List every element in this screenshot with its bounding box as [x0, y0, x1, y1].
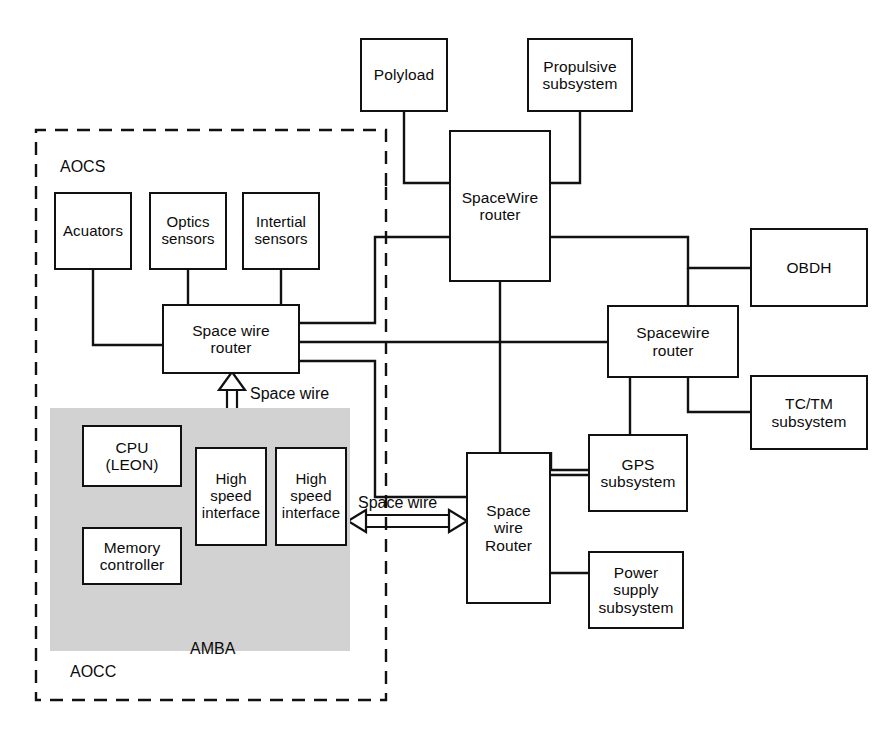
node-obdh-label: OBDH [784, 259, 833, 276]
node-intertial-sensors-line2: sensors [252, 231, 309, 248]
node-space-wire-router-platform[interactable]: Space wire Router [466, 452, 551, 604]
aocs-region-label: AOCS [60, 158, 105, 176]
node-intertial-sensors-line1: Intertial [252, 214, 309, 231]
node-optics-sensors-line2: sensors [159, 231, 216, 248]
node-high-speed-interface-2-line3: interface [280, 505, 342, 522]
node-intertial-sensors[interactable]: Intertial sensors [242, 192, 320, 270]
node-space-wire-router-platform-line1: Space wire [468, 502, 549, 537]
node-polyload[interactable]: Polyload [360, 38, 448, 112]
node-space-wire-router-platform-line2: Router [468, 537, 549, 554]
node-high-speed-interface-2-line1: High [280, 471, 342, 488]
node-memory-controller[interactable]: Memory controller [82, 527, 182, 585]
node-gps-subsystem-line1: GPS [599, 456, 678, 473]
node-high-speed-interface-1[interactable]: High speed interface [195, 447, 267, 546]
node-tc-tm-subsystem[interactable]: TC/TM subsystem [750, 375, 868, 450]
node-memory-controller-line1: Memory [98, 539, 167, 556]
node-acuators-label: Acuators [61, 223, 125, 240]
node-spacewire-router-right-line2: router [634, 342, 711, 359]
node-spacewire-router-main-line1: SpaceWire [460, 189, 541, 206]
node-power-supply-subsystem[interactable]: Power supply subsystem [588, 551, 684, 629]
node-tc-tm-subsystem-line1: TC/TM [770, 395, 849, 412]
aocc-region-label: AOCC [70, 663, 116, 681]
amba-bus-label: AMBA [190, 640, 235, 658]
node-space-wire-router-aocs[interactable]: Space wire router [162, 304, 300, 374]
node-spacewire-router-main-line2: router [460, 206, 541, 223]
diagram-canvas: AOCS AOCC Space wire Space wire AMBA Pol… [0, 0, 896, 732]
node-high-speed-interface-1-line1: High [200, 471, 262, 488]
node-gps-subsystem[interactable]: GPS subsystem [588, 434, 688, 512]
node-high-speed-interface-1-line3: interface [200, 505, 262, 522]
node-optics-sensors[interactable]: Optics sensors [149, 192, 227, 270]
node-space-wire-router-aocs-line1: Space wire [190, 322, 272, 339]
node-power-supply-subsystem-line3: subsystem [597, 599, 676, 616]
node-optics-sensors-line1: Optics [159, 214, 216, 231]
node-power-supply-subsystem-line2: supply [597, 581, 676, 598]
node-cpu-leon-line1: CPU [103, 439, 160, 456]
node-high-speed-interface-2[interactable]: High speed interface [275, 447, 347, 546]
node-power-supply-subsystem-line1: Power [597, 564, 676, 581]
node-propulsive-subsystem-line2: subsystem [541, 75, 620, 92]
node-spacewire-router-main[interactable]: SpaceWire router [449, 130, 551, 282]
node-cpu-leon[interactable]: CPU (LEON) [82, 425, 182, 487]
node-high-speed-interface-2-line2: speed [280, 488, 342, 505]
node-space-wire-router-aocs-line2: router [190, 339, 272, 356]
node-high-speed-interface-1-line2: speed [200, 488, 262, 505]
node-spacewire-router-right-line1: Spacewire [634, 324, 711, 341]
node-gps-subsystem-line2: subsystem [599, 473, 678, 490]
node-memory-controller-line2: controller [98, 556, 167, 573]
node-tc-tm-subsystem-line2: subsystem [770, 413, 849, 430]
node-spacewire-router-right[interactable]: Spacewire router [607, 305, 739, 378]
space-wire-vertical-label: Space wire [250, 385, 329, 403]
node-obdh[interactable]: OBDH [750, 228, 868, 307]
node-polyload-label: Polyload [372, 66, 436, 83]
node-propulsive-subsystem-line1: Propulsive [541, 58, 620, 75]
node-acuators[interactable]: Acuators [54, 192, 132, 270]
space-wire-horizontal-label: Space wire [358, 494, 437, 512]
node-propulsive-subsystem[interactable]: Propulsive subsystem [527, 38, 633, 112]
node-cpu-leon-line2: (LEON) [103, 456, 160, 473]
